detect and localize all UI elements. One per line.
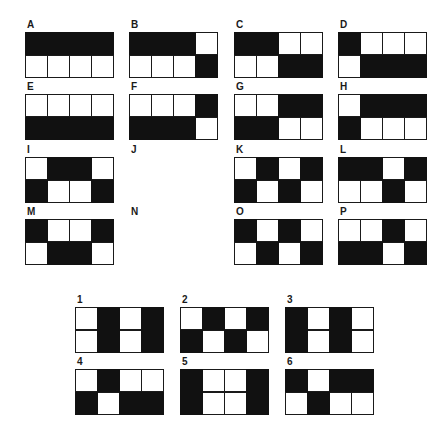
empty-cell bbox=[339, 56, 360, 77]
filled-cell bbox=[300, 157, 323, 180]
empty-cell bbox=[301, 118, 322, 139]
filled-cell bbox=[69, 157, 92, 180]
empty-cell bbox=[383, 118, 404, 139]
matrix-label: K bbox=[236, 145, 243, 155]
filled-cell bbox=[278, 94, 301, 117]
filled-cell bbox=[97, 369, 120, 392]
filled-cell bbox=[91, 180, 114, 203]
filled-cell bbox=[382, 219, 405, 242]
filled-cell bbox=[256, 32, 279, 55]
filled-cell bbox=[329, 330, 352, 353]
filled-cell bbox=[47, 117, 70, 140]
filled-cell bbox=[180, 392, 203, 415]
matrix-label: E bbox=[27, 82, 34, 92]
filled-cell bbox=[234, 180, 257, 203]
filled-cell bbox=[285, 307, 308, 330]
filled-cell bbox=[25, 219, 48, 242]
filled-cell bbox=[382, 55, 405, 78]
empty-cell bbox=[130, 56, 151, 77]
empty-cell bbox=[301, 220, 322, 241]
empty-cell bbox=[196, 33, 217, 54]
matrix-label: J bbox=[131, 145, 137, 155]
empty-cell bbox=[405, 220, 426, 241]
pattern-grid bbox=[129, 94, 218, 140]
filled-cell bbox=[278, 180, 301, 203]
filled-cell bbox=[91, 219, 114, 242]
options-label: 2 bbox=[182, 295, 188, 305]
matrix-label: C bbox=[236, 20, 243, 30]
filled-cell bbox=[173, 117, 196, 140]
matrix-label: F bbox=[131, 82, 137, 92]
matrix-label: M bbox=[27, 207, 35, 217]
empty-cell bbox=[196, 118, 217, 139]
empty-cell bbox=[235, 158, 256, 179]
empty-cell bbox=[235, 95, 256, 116]
empty-cell bbox=[26, 95, 47, 116]
empty-cell bbox=[26, 56, 47, 77]
filled-cell bbox=[141, 392, 164, 415]
filled-cell bbox=[404, 55, 427, 78]
filled-cell bbox=[360, 55, 383, 78]
empty-cell bbox=[120, 370, 141, 391]
pattern-grid[interactable] bbox=[75, 369, 164, 415]
matrix-label: O bbox=[236, 207, 244, 217]
pattern-grid[interactable] bbox=[180, 369, 269, 415]
pattern-grid bbox=[338, 94, 427, 140]
empty-cell bbox=[181, 308, 202, 329]
pattern-grid bbox=[338, 219, 427, 265]
filled-cell bbox=[360, 242, 383, 265]
empty-cell bbox=[48, 95, 69, 116]
empty-cell bbox=[26, 158, 47, 179]
filled-cell bbox=[91, 32, 114, 55]
empty-cell bbox=[279, 118, 300, 139]
filled-cell bbox=[119, 392, 142, 415]
empty-cell bbox=[339, 220, 360, 241]
filled-cell bbox=[285, 369, 308, 392]
filled-cell bbox=[307, 392, 330, 415]
empty-cell bbox=[26, 243, 47, 264]
matrix-label: G bbox=[236, 82, 244, 92]
filled-cell bbox=[404, 157, 427, 180]
empty-cell bbox=[92, 95, 113, 116]
pattern-grid bbox=[234, 157, 323, 203]
empty-cell bbox=[92, 56, 113, 77]
empty-cell bbox=[203, 331, 224, 352]
empty-cell bbox=[225, 393, 246, 414]
filled-cell bbox=[234, 32, 257, 55]
filled-cell bbox=[180, 369, 203, 392]
filled-cell bbox=[129, 32, 152, 55]
empty-cell bbox=[279, 243, 300, 264]
filled-cell bbox=[91, 117, 114, 140]
empty-cell bbox=[339, 95, 360, 116]
empty-cell bbox=[225, 370, 246, 391]
empty-cell bbox=[352, 308, 373, 329]
pattern-grid bbox=[25, 32, 114, 78]
empty-cell bbox=[257, 56, 278, 77]
filled-cell bbox=[404, 94, 427, 117]
empty-cell bbox=[405, 181, 426, 202]
pattern-grid[interactable] bbox=[75, 307, 164, 353]
pattern-grid bbox=[25, 219, 114, 265]
empty-cell bbox=[92, 158, 113, 179]
filled-cell bbox=[360, 94, 383, 117]
empty-cell bbox=[308, 331, 329, 352]
empty-cell bbox=[48, 181, 69, 202]
filled-cell bbox=[329, 307, 352, 330]
pattern-grid[interactable] bbox=[180, 307, 269, 353]
empty-cell bbox=[361, 118, 382, 139]
pattern-puzzle: ABCDEFGHIJKLMNOP 123456 bbox=[0, 0, 447, 441]
empty-cell bbox=[76, 370, 97, 391]
empty-cell bbox=[257, 181, 278, 202]
empty-cell bbox=[361, 33, 382, 54]
matrix-label: L bbox=[340, 145, 346, 155]
empty-cell bbox=[383, 33, 404, 54]
pattern-grid[interactable] bbox=[285, 307, 374, 353]
filled-cell bbox=[47, 242, 70, 265]
pattern-grid[interactable] bbox=[285, 369, 374, 415]
filled-cell bbox=[338, 157, 361, 180]
filled-cell bbox=[97, 307, 120, 330]
filled-cell bbox=[69, 32, 92, 55]
filled-cell bbox=[246, 369, 269, 392]
pattern-grid bbox=[338, 157, 427, 203]
empty-cell bbox=[279, 158, 300, 179]
